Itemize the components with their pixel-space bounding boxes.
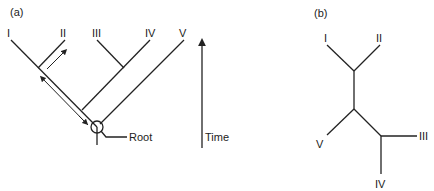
- branch-a-V: [100, 40, 184, 124]
- taxon-b-II: II: [376, 32, 382, 44]
- branch-b-V: [327, 109, 354, 135]
- branch-b-II: [354, 45, 380, 71]
- arrow-to-II: [47, 51, 65, 69]
- branch-a-IV: [82, 40, 150, 110]
- taxon-a-II: II: [60, 27, 66, 39]
- branch-b-internal-2: [354, 109, 381, 136]
- taxon-a-V: V: [179, 27, 187, 39]
- panel-b-label: (b): [314, 7, 327, 19]
- panel-b-unrooted-tree: (b) I II III IV V: [314, 7, 428, 190]
- taxon-b-V: V: [316, 138, 324, 150]
- taxon-b-IV: IV: [375, 178, 386, 190]
- branch-a-III: [97, 40, 124, 68]
- time-label: Time: [205, 131, 229, 143]
- root-leader-line: [101, 131, 127, 137]
- branch-a-I: [11, 40, 97, 127]
- taxon-a-I: I: [7, 27, 10, 39]
- root-label: Root: [129, 131, 152, 143]
- panel-a-label: (a): [10, 6, 23, 18]
- phylogeny-figure: (a) I II III IV V Root Time (b) I I: [0, 0, 434, 191]
- panel-a-rooted-tree: (a) I II III IV V Root Time: [7, 6, 229, 148]
- taxon-a-III: III: [92, 27, 101, 39]
- arrow-down-branch-I: [79, 116, 86, 123]
- branch-b-I: [327, 45, 354, 71]
- taxon-b-III: III: [419, 130, 428, 142]
- taxon-b-I: I: [324, 32, 327, 44]
- taxon-a-IV: IV: [145, 27, 156, 39]
